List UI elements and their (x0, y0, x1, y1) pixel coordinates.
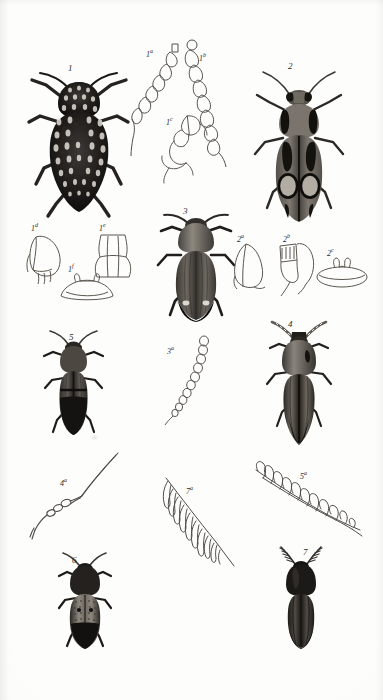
figure-1-label: 1 (68, 64, 73, 73)
figure-1f-label: 1f (68, 263, 74, 274)
figure-2a-label: 2a (237, 233, 244, 244)
figure-1c-label: 1c (166, 116, 173, 127)
figure-2b-label: 2b (283, 233, 290, 244)
figure-5-label: 5 (69, 333, 74, 342)
ink-smudge (176, 300, 181, 303)
figure-1-beetle (18, 60, 140, 220)
figure-2-beetle (243, 62, 355, 224)
figure-4-label: 4 (288, 320, 293, 329)
figure-4a-antenna-detail (30, 452, 122, 540)
figure-7a-label: 7a (186, 485, 193, 496)
figure-3a-label: 3a (167, 345, 174, 356)
figure-5a-antenna-detail (252, 462, 364, 540)
figure-6-beetle (50, 552, 120, 652)
figure-7-label: 7 (303, 548, 308, 557)
figure-7a-antenna-detail (158, 472, 248, 568)
figure-1e-label: 1e (99, 222, 106, 233)
figure-4a-label: 4a (60, 477, 67, 488)
figure-4-beetle (255, 318, 343, 446)
figure-6-label: 6 (72, 556, 77, 565)
figure-1c-leg-detail (155, 112, 217, 187)
figure-2c-coxal-plate-detail (313, 256, 373, 290)
ink-smudge (92, 436, 97, 439)
figure-1a-label: 1a (146, 48, 153, 59)
figure-2a-prosternum-detail (228, 241, 272, 291)
figure-1b-label: 1b (199, 52, 206, 63)
figure-1d-label: 1d (31, 222, 38, 233)
figure-3-label: 3 (183, 207, 188, 216)
illustration-plate: 1 1a (0, 0, 383, 700)
figure-2-label: 2 (288, 62, 293, 71)
figure-2c-label: 2c (327, 247, 334, 258)
figure-7-beetle (266, 544, 336, 650)
figure-1f-coxal-plate-detail (58, 272, 118, 304)
figure-5-beetle (34, 330, 114, 440)
figure-5a-label: 5a (300, 470, 307, 481)
